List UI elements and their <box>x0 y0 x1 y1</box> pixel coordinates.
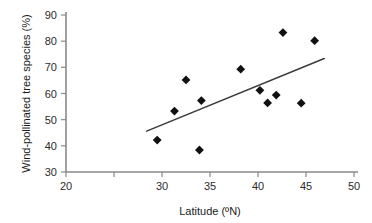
data-point-marker <box>310 36 319 45</box>
x-tick-label: 30 <box>156 180 168 192</box>
scatter-chart: 30405060708090203035404550Latitude (ºN)W… <box>0 0 372 223</box>
y-tick-label: 60 <box>45 88 57 100</box>
y-tick-label: 80 <box>45 35 57 47</box>
y-tick-label: 40 <box>45 140 57 152</box>
data-point-marker <box>170 107 179 116</box>
data-point-marker <box>236 65 245 74</box>
data-point-marker <box>279 28 288 37</box>
x-tick-label: 45 <box>300 180 312 192</box>
y-axis-title: Wind-pollinated tree species (%) <box>20 14 32 172</box>
data-point-marker <box>263 99 272 108</box>
chart-canvas: 30405060708090203035404550Latitude (ºN)W… <box>0 0 372 223</box>
x-tick-label: 35 <box>204 180 216 192</box>
trend-line <box>147 58 325 131</box>
data-point-marker <box>272 91 281 100</box>
y-tick-label: 90 <box>45 9 57 21</box>
y-tick-label: 50 <box>45 114 57 126</box>
x-axis-title: Latitude (ºN) <box>179 205 241 217</box>
data-point-marker <box>182 75 191 84</box>
x-tick-label: 20 <box>60 180 72 192</box>
y-tick-label: 30 <box>45 166 57 178</box>
x-tick-label: 40 <box>252 180 264 192</box>
y-tick-label: 70 <box>45 61 57 73</box>
data-point-marker <box>153 136 162 145</box>
data-point-marker <box>256 86 265 95</box>
data-point-marker <box>195 146 204 155</box>
x-tick-label: 50 <box>348 180 360 192</box>
data-point-marker <box>297 99 306 108</box>
data-point-marker <box>197 96 206 105</box>
